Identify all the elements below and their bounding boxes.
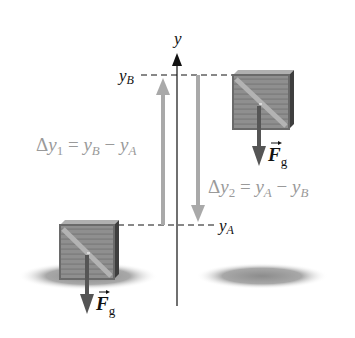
level-label-bottom: yA (217, 216, 235, 237)
y-axis-label: y (172, 29, 182, 48)
displacement-arrow-up (156, 78, 170, 225)
displacement-diagram: y yB yA Δy1 = yB − yA Δy2 = yA − yB Fg (0, 0, 355, 338)
crate-bottom (60, 220, 119, 279)
force-label-bottom: Fg (95, 293, 116, 318)
force-label-top: Fg (267, 144, 288, 169)
level-label-top: yB (117, 66, 135, 87)
y-axis (172, 53, 182, 306)
displacement-arrow-down (191, 75, 205, 222)
equation-delta-y2: Δy2 = yA − yB (208, 176, 308, 200)
crate-top (233, 70, 294, 129)
equation-delta-y1: Δy1 = yB − yA (36, 134, 136, 158)
shadow-empty (196, 263, 328, 289)
